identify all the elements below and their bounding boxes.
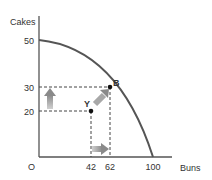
x-tick-100: 100 xyxy=(145,162,160,172)
point-b xyxy=(108,85,113,90)
x-tick-62: 62 xyxy=(105,162,115,172)
x-axis-label: Buns xyxy=(180,163,201,173)
y-tick-20: 20 xyxy=(24,107,34,117)
y-axis-label: Cakes xyxy=(10,17,36,27)
point-y-label: Y xyxy=(84,99,90,109)
y-tick-50: 50 xyxy=(24,36,34,46)
y-tick-30: 30 xyxy=(24,83,34,93)
origin-label: O xyxy=(28,162,35,172)
point-y xyxy=(89,109,94,114)
diagonal-arrow xyxy=(95,89,109,104)
right-arrow xyxy=(92,143,109,155)
x-tick-42: 42 xyxy=(86,162,96,172)
up-arrow xyxy=(44,88,56,109)
ppf-curve xyxy=(39,40,153,157)
ppf-chart: Cakes 50 30 20 O 42 62 100 Buns Y B xyxy=(0,0,212,180)
point-b-label: B xyxy=(113,78,120,88)
